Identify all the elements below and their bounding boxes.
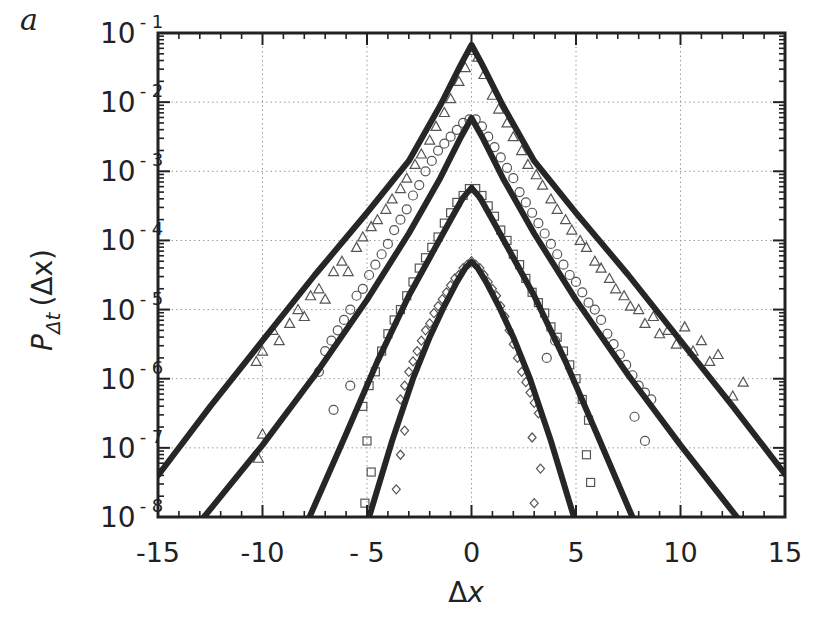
- circle-marker: [377, 250, 386, 259]
- circle-marker: [496, 153, 505, 162]
- circle-marker: [340, 315, 349, 324]
- circle-marker: [415, 181, 424, 190]
- circle-marker: [630, 412, 639, 421]
- triangle-marker: [561, 215, 571, 224]
- circle-marker: [365, 271, 374, 280]
- circle-marker: [396, 215, 405, 224]
- circle-marker: [559, 260, 568, 269]
- triangle-marker: [299, 311, 309, 320]
- circle-marker: [542, 353, 551, 362]
- triangle-marker: [425, 135, 435, 144]
- triangle-marker: [402, 173, 412, 182]
- diamond-marker: [401, 426, 409, 435]
- triangle-marker: [337, 256, 347, 265]
- x-tick-label: 0: [463, 537, 480, 568]
- square-marker: [582, 451, 590, 459]
- triangle-marker: [314, 284, 324, 293]
- y-tick-label: 10- 7: [100, 426, 163, 465]
- circle-marker: [371, 260, 380, 269]
- triangle-marker: [680, 322, 690, 331]
- x-tick-label: 10: [663, 537, 697, 568]
- circle-marker: [402, 205, 411, 214]
- triangle-marker: [358, 232, 368, 241]
- triangle-marker: [366, 222, 376, 231]
- circle-marker: [509, 174, 518, 183]
- circle-marker: [503, 163, 512, 172]
- circle-marker: [329, 405, 338, 414]
- circle-marker: [427, 156, 436, 165]
- triangle-marker: [696, 336, 706, 345]
- diamond-marker: [396, 450, 404, 459]
- triangle-marker: [581, 242, 591, 251]
- x-tick-label: - 5: [349, 537, 385, 568]
- y-axis-title: PΔt(Δx): [26, 249, 65, 351]
- circle-marker: [408, 191, 417, 200]
- x-axis-title: Δx: [448, 576, 484, 609]
- y-tick-label: 10- 5: [100, 288, 163, 327]
- x-tick-label: 15: [768, 537, 802, 568]
- triangle-marker: [352, 242, 362, 251]
- triangle-marker: [372, 215, 382, 224]
- circle-marker: [640, 436, 649, 445]
- log-probability-chart: 10- 110- 210- 310- 410- 510- 610- 710- 8…: [0, 0, 814, 622]
- triangle-marker: [552, 204, 562, 213]
- circle-marker: [534, 219, 543, 228]
- diamond-marker: [528, 433, 536, 442]
- diamond-marker: [392, 485, 400, 494]
- y-tick-label: 10- 3: [100, 149, 163, 188]
- circle-marker: [346, 381, 355, 390]
- triangle-marker: [625, 301, 635, 310]
- diamond-marker: [536, 464, 544, 473]
- y-tick-label: 10- 6: [100, 357, 163, 396]
- triangle-marker: [567, 225, 577, 234]
- diamond-marker: [530, 499, 538, 508]
- triangle-marker: [546, 194, 556, 203]
- y-tick-label: 10- 1: [100, 11, 163, 50]
- triangle-marker: [596, 263, 606, 272]
- x-tick-label: -15: [136, 537, 180, 568]
- circle-marker: [578, 288, 587, 297]
- triangle-marker: [395, 184, 405, 193]
- square-marker: [367, 468, 375, 476]
- circle-marker: [515, 188, 524, 197]
- triangle-marker: [387, 194, 397, 203]
- circle-marker: [358, 284, 367, 293]
- triangle-marker: [285, 318, 295, 327]
- circle-marker: [553, 250, 562, 259]
- circle-marker: [528, 208, 537, 217]
- triangle-marker: [713, 350, 723, 359]
- x-tick-label: 5: [567, 537, 584, 568]
- triangle-marker: [381, 204, 391, 213]
- fit-curve-squares: [310, 188, 633, 517]
- circle-marker: [390, 226, 399, 235]
- triangle-marker: [538, 180, 548, 189]
- y-tick-label: 10- 8: [100, 495, 163, 534]
- triangle-marker: [320, 294, 330, 303]
- triangle-marker: [274, 336, 284, 345]
- triangle-marker: [604, 273, 614, 282]
- circle-marker: [540, 229, 549, 238]
- square-marker: [587, 478, 595, 486]
- y-tick-label: 10- 4: [100, 218, 163, 257]
- triangle-marker: [590, 256, 600, 265]
- x-tick-label: -10: [240, 537, 284, 568]
- triangle-marker: [343, 267, 353, 276]
- grid-lines: [158, 33, 785, 517]
- circle-marker: [521, 198, 530, 207]
- circle-marker: [597, 315, 606, 324]
- y-tick-label: 10- 2: [100, 80, 163, 119]
- triangle-marker: [329, 267, 339, 276]
- triangle-marker: [611, 284, 621, 293]
